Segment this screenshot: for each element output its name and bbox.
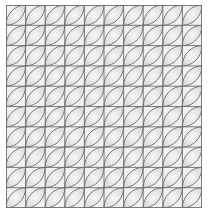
leaf-tile [163, 167, 183, 187]
leaf-tile [65, 86, 85, 106]
leaf-tile [104, 66, 124, 86]
leaf-tile [124, 167, 144, 187]
leaf-tile [182, 86, 202, 106]
leaf-tile [6, 66, 26, 86]
leaf-tile [182, 46, 202, 66]
leaf-tile [6, 46, 26, 66]
leaf-tile [163, 46, 183, 66]
leaf-tile [182, 127, 202, 147]
leaf-pattern-grid [6, 5, 202, 208]
leaf-tile [124, 25, 144, 45]
leaf-tile [163, 127, 183, 147]
leaf-tile [45, 66, 65, 86]
leaf-tile [84, 127, 104, 147]
leaf-tile [143, 86, 163, 106]
leaf-tile [124, 147, 144, 167]
leaf-tile [104, 107, 124, 127]
leaf-tile [84, 86, 104, 106]
leaf-tile [104, 188, 124, 208]
leaf-tile [45, 167, 65, 187]
leaf-tile [26, 188, 46, 208]
leaf-tile [163, 5, 183, 25]
leaf-tile [143, 46, 163, 66]
leaf-tile [6, 167, 26, 187]
leaf-tile [84, 25, 104, 45]
leaf-tile [163, 188, 183, 208]
leaf-tile [104, 147, 124, 167]
leaf-tile [65, 167, 85, 187]
leaf-tile [124, 46, 144, 66]
leaf-tile [182, 66, 202, 86]
leaf-tile [45, 188, 65, 208]
tile-panel [6, 5, 202, 208]
leaf-tile [65, 127, 85, 147]
leaf-tile [6, 127, 26, 147]
leaf-tile [163, 107, 183, 127]
leaf-tile [143, 66, 163, 86]
leaf-tile [182, 25, 202, 45]
leaf-tile [163, 147, 183, 167]
leaf-tile [143, 147, 163, 167]
leaf-tile [143, 25, 163, 45]
leaf-tile [124, 107, 144, 127]
leaf-tile [124, 127, 144, 147]
leaf-tile [6, 5, 26, 25]
leaf-tile [163, 86, 183, 106]
leaf-tile [143, 188, 163, 208]
leaf-tile [124, 188, 144, 208]
leaf-tile [84, 66, 104, 86]
leaf-tile [65, 66, 85, 86]
leaf-tile [182, 5, 202, 25]
leaf-tile [84, 107, 104, 127]
leaf-tile [45, 107, 65, 127]
leaf-tile [124, 86, 144, 106]
leaf-tile [104, 167, 124, 187]
leaf-tile [6, 147, 26, 167]
pattern-image [0, 0, 209, 216]
leaf-tile [182, 107, 202, 127]
leaf-tile [26, 107, 46, 127]
leaf-tile [65, 25, 85, 45]
leaf-tile [65, 5, 85, 25]
leaf-tile [143, 167, 163, 187]
leaf-tile [26, 127, 46, 147]
leaf-tile [6, 86, 26, 106]
leaf-tile [143, 127, 163, 147]
leaf-tile [84, 5, 104, 25]
leaf-tile [124, 5, 144, 25]
leaf-tile [6, 25, 26, 45]
leaf-tile [45, 127, 65, 147]
leaf-tile [45, 46, 65, 66]
leaf-tile [65, 147, 85, 167]
leaf-tile [45, 25, 65, 45]
leaf-tile [104, 86, 124, 106]
leaf-tile [84, 46, 104, 66]
leaf-tile [26, 25, 46, 45]
leaf-tile [65, 46, 85, 66]
leaf-tile [182, 147, 202, 167]
leaf-tile [45, 5, 65, 25]
leaf-tile [26, 167, 46, 187]
leaf-tile [104, 5, 124, 25]
leaf-tile [26, 86, 46, 106]
leaf-tile [84, 167, 104, 187]
leaf-tile [104, 25, 124, 45]
leaf-tile [65, 107, 85, 127]
leaf-tile [163, 25, 183, 45]
leaf-tile [84, 188, 104, 208]
leaf-tile [104, 127, 124, 147]
leaf-tile [26, 66, 46, 86]
leaf-tile [182, 188, 202, 208]
leaf-tile [84, 147, 104, 167]
leaf-tile [163, 66, 183, 86]
leaf-tile [26, 46, 46, 66]
leaf-tile [143, 5, 163, 25]
leaf-tile [65, 188, 85, 208]
leaf-tile [6, 188, 26, 208]
leaf-tile [6, 107, 26, 127]
leaf-tile [182, 167, 202, 187]
leaf-tile [45, 147, 65, 167]
leaf-tile [45, 86, 65, 106]
leaf-tile [26, 5, 46, 25]
leaf-tile [26, 147, 46, 167]
